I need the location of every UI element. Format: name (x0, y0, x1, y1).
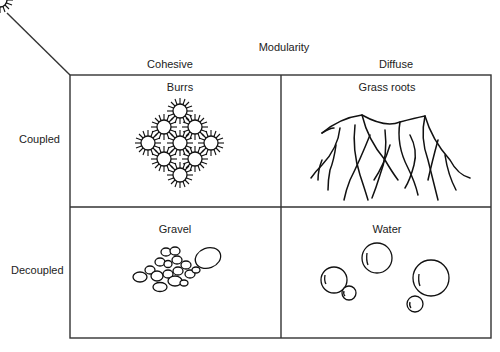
cell-label-grass-roots: Grass roots (359, 81, 416, 93)
modularity-axis-title: Modularity (259, 41, 310, 53)
column-header-diffuse: Diffuse (379, 58, 413, 70)
cell-label-burrs: Burrs (167, 81, 193, 93)
cell-label-gravel: Gravel (159, 223, 191, 235)
water-droplets-icon (321, 243, 449, 312)
cell-label-water: Water (373, 223, 402, 235)
gravel-icon (133, 244, 224, 291)
grass-roots-icon (311, 115, 470, 200)
diagram-canvas (0, 0, 500, 352)
burrs-icon (0, 0, 224, 188)
corner-diagonal-line (7, 13, 70, 75)
row-header-decoupled: Decoupled (11, 264, 64, 276)
row-header-coupled: Coupled (19, 133, 60, 145)
column-header-cohesive: Cohesive (147, 58, 193, 70)
